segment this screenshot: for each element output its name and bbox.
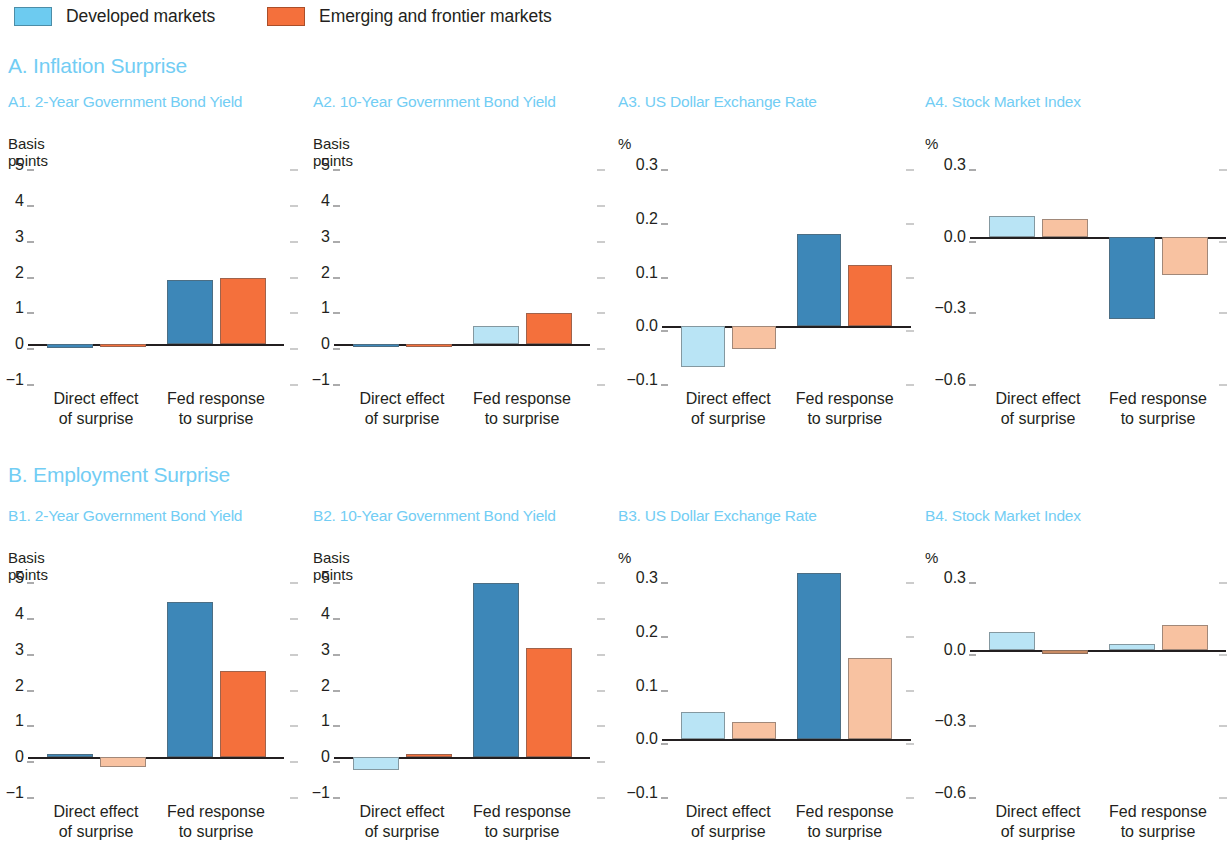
y-axis-tick-mark-right [906, 277, 914, 278]
x-axis-group-label-line1: Fed response [462, 389, 582, 409]
y-axis-tick-mark [333, 241, 340, 242]
bar-b2-g1-s1 [526, 648, 572, 757]
x-axis-group-label-line1: Fed response [787, 802, 904, 822]
y-axis-tick-mark [27, 349, 34, 350]
x-axis-group-label: Fed responseto surprise [462, 389, 582, 429]
x-axis-group-label-line2: to surprise [462, 822, 582, 842]
legend-swatch-developed-markets [14, 7, 52, 26]
x-axis-group-label-line1: Direct effect [670, 802, 787, 822]
y-axis-tick-mark [333, 762, 340, 763]
y-axis-tick-mark [333, 170, 340, 171]
y-axis-tick-label: 2 [304, 677, 330, 695]
x-axis-group-label-line2: to surprise [787, 409, 904, 429]
y-axis-tick-mark-right [290, 170, 298, 171]
y-axis-tick-label: 0.0 [610, 317, 658, 335]
y-axis-tick-mark [333, 313, 340, 314]
bar-a2-g1-s0 [473, 326, 519, 345]
y-axis-tick-mark-right [906, 798, 914, 799]
y-axis-tick-mark [969, 798, 976, 799]
y-axis-tick-mark [661, 690, 668, 691]
y-axis-tick-label: 5 [0, 569, 24, 587]
y-axis-tick-label: 0 [0, 335, 24, 353]
bar-b2-g0-s1 [406, 754, 452, 757]
x-axis-group-label-line1: Fed response [156, 802, 276, 822]
x-axis-group-label-line2: to surprise [156, 822, 276, 842]
y-axis-tick-label: 2 [304, 264, 330, 282]
y-axis-tick-mark-right [597, 349, 605, 350]
y-axis-tick-mark [969, 385, 976, 386]
legend-label-developed-markets: Developed markets [66, 6, 215, 27]
x-axis-group-label-line1: Fed response [156, 389, 276, 409]
x-axis-group-label-line2: to surprise [787, 822, 904, 842]
section-title-employment-surprise: B. Employment Surprise [8, 463, 230, 487]
x-axis-group-label-line2: of surprise [978, 409, 1098, 429]
y-axis-tick-label: 4 [0, 605, 24, 623]
y-axis-tick-label: 4 [0, 192, 24, 210]
y-axis-tick-mark-right [906, 170, 914, 171]
axis-unit-label-b4: % [925, 549, 938, 566]
y-axis-tick-label: 2 [0, 264, 24, 282]
x-axis-group-label: Direct effectof surprise [978, 802, 1098, 842]
bar-a3-g0-s0 [681, 326, 725, 366]
y-axis-tick-mark-right [597, 690, 605, 691]
y-axis-tick-mark-right [290, 618, 298, 619]
x-axis-group-label-line1: Direct effect [978, 389, 1098, 409]
y-axis-tick-label: −1 [0, 371, 24, 389]
x-axis-group-label: Direct effectof surprise [342, 389, 462, 429]
bar-b3-g0-s1 [732, 722, 776, 739]
y-axis-tick-label: 5 [304, 156, 330, 174]
y-axis-tick-mark-right [290, 762, 298, 763]
y-axis-tick-label: −1 [0, 784, 24, 802]
y-axis-tick-mark-right [290, 313, 298, 314]
y-axis-tick-label: −1 [304, 371, 330, 389]
x-axis-group-label: Direct effectof surprise [670, 802, 787, 842]
bar-b4-g0-s0 [989, 632, 1035, 649]
y-axis-tick-mark [969, 170, 976, 171]
y-axis-tick-mark-right [290, 205, 298, 206]
bar-b3-g1-s1 [848, 658, 892, 740]
y-axis-tick-mark [661, 385, 668, 386]
y-axis-tick-label: 1 [0, 299, 24, 317]
y-axis-tick-mark-right [597, 277, 605, 278]
y-axis-tick-label: 0.2 [610, 210, 658, 228]
y-axis-tick-label: 1 [0, 712, 24, 730]
y-axis-tick-mark [333, 726, 340, 727]
y-axis-tick-mark-right [906, 331, 914, 332]
panel-title-a4: A4. Stock Market Index [925, 93, 1081, 111]
panel-title-b1: B1. 2-Year Government Bond Yield [8, 507, 242, 525]
y-axis-tick-mark-right [1219, 798, 1227, 799]
y-axis-tick-mark-right [1219, 313, 1227, 314]
bar-b3-g0-s0 [681, 712, 725, 739]
x-axis-group-label: Fed responseto surprise [787, 389, 904, 429]
y-axis-tick-mark [27, 205, 34, 206]
y-axis-tick-label: 1 [304, 712, 330, 730]
y-axis-tick-label: 0.0 [918, 228, 966, 246]
y-axis-tick-label: 2 [0, 677, 24, 695]
x-axis-group-label: Fed responseto surprise [1098, 389, 1218, 429]
y-axis-tick-mark [661, 170, 668, 171]
x-axis-group-label-line2: to surprise [156, 409, 276, 429]
bar-b1-g1-s0 [167, 602, 213, 757]
x-axis-group-label-line1: Fed response [787, 389, 904, 409]
y-axis-tick-label: −0.1 [610, 371, 658, 389]
y-axis-tick-label: 3 [0, 641, 24, 659]
zero-baseline [28, 757, 284, 759]
x-axis-group-label-line2: of surprise [36, 822, 156, 842]
x-axis-group-label: Fed responseto surprise [1098, 802, 1218, 842]
bar-a3-g0-s1 [732, 326, 776, 349]
y-axis-tick-mark-right [906, 744, 914, 745]
y-axis-tick-mark [333, 385, 340, 386]
y-axis-tick-mark-right [906, 636, 914, 637]
x-axis-group-label-line2: to surprise [462, 409, 582, 429]
y-axis-tick-mark-right [290, 349, 298, 350]
bar-b2-g1-s0 [473, 583, 519, 757]
y-axis-tick-mark-right [290, 583, 298, 584]
x-axis-group-label: Fed responseto surprise [462, 802, 582, 842]
x-axis-group-label-line2: of surprise [342, 409, 462, 429]
x-axis-group-label: Direct effectof surprise [670, 389, 787, 429]
panel-title-a1: A1. 2-Year Government Bond Yield [8, 93, 242, 111]
y-axis-tick-mark [27, 618, 34, 619]
y-axis-tick-mark-right [1219, 241, 1227, 242]
x-axis-group-label: Fed responseto surprise [156, 802, 276, 842]
y-axis-tick-mark [333, 349, 340, 350]
